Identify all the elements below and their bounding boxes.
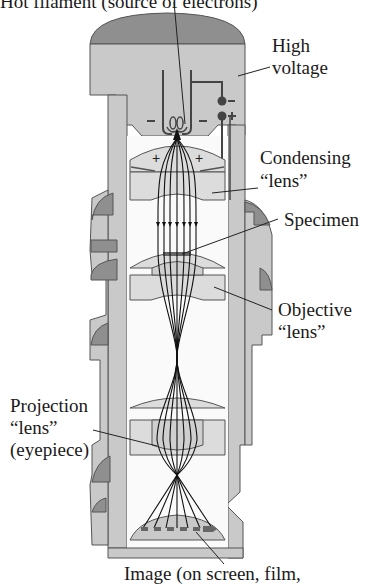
left-bump-2	[91, 240, 117, 252]
electron-microscope-diagram: + +	[0, 0, 388, 586]
projection-lens-label-line2: “lens”	[10, 418, 57, 438]
condensing-lens-label-line2: “lens”	[260, 171, 307, 191]
base	[108, 548, 243, 558]
terminal-positive	[218, 112, 227, 121]
objective-lens-label-line2: “lens”	[278, 322, 325, 342]
column-left-wall	[108, 95, 127, 548]
svg-text:+: +	[195, 150, 203, 166]
objective-lens-label-line1: Objective	[278, 300, 352, 320]
specimen-label: Specimen	[284, 210, 359, 230]
projection-lens-label-line1: Projection	[10, 396, 88, 416]
high-voltage-label-line1: High	[272, 36, 310, 56]
projection-lens-label-line3: (eyepiece)	[10, 440, 89, 460]
filament-label: Hot filament (source of electrons)	[0, 0, 257, 12]
image-label: Image (on screen, film,	[124, 564, 301, 584]
head-cap	[90, 13, 245, 44]
microscope-drawing: + +	[0, 0, 388, 586]
high-voltage-label-line2: voltage	[272, 58, 328, 78]
condensing-lens-label-line1: Condensing	[260, 148, 351, 168]
column-right-exterior	[245, 200, 272, 445]
svg-text:+: +	[152, 150, 160, 166]
terminal-negative	[218, 97, 227, 106]
